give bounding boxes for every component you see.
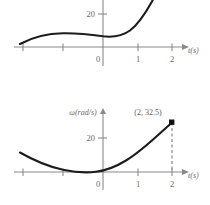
chart-omega-vs-time: ω(rad/s) 20 0 1 2 t(s) (2, 32.5)	[0, 100, 210, 205]
bottom-xtick-label-1: 1	[136, 179, 140, 189]
chart-theta-vs-time: 20 0 1 2 t(s)	[0, 0, 210, 100]
physics-graph-figure: 20 0 1 2 t(s)	[0, 0, 210, 205]
bottom-y-axis-arrow-icon	[100, 108, 106, 114]
bottom-curve-omega	[20, 123, 172, 173]
top-xtick-label-0: 0	[96, 54, 100, 64]
top-curve-theta	[20, 0, 156, 44]
top-x-axis-label: t(s)	[188, 46, 199, 55]
bottom-ytick-label-20: 20	[87, 133, 96, 143]
chart-theta-svg: 20 0 1 2 t(s)	[0, 0, 210, 100]
top-xtick-label-1: 1	[136, 54, 140, 64]
bottom-xtick-label-2: 2	[170, 179, 174, 189]
bottom-xtick-label-0: 0	[96, 179, 100, 189]
bottom-data-point-marker	[169, 120, 174, 125]
bottom-x-axis-label: t(s)	[188, 171, 199, 180]
top-xtick-label-2: 2	[170, 54, 174, 64]
top-ytick-label-20: 20	[87, 9, 96, 19]
bottom-y-axis-label: ω(rad/s)	[69, 108, 97, 117]
bottom-point-annotation: (2, 32.5)	[134, 108, 162, 117]
chart-omega-svg: ω(rad/s) 20 0 1 2 t(s) (2, 32.5)	[0, 100, 210, 205]
